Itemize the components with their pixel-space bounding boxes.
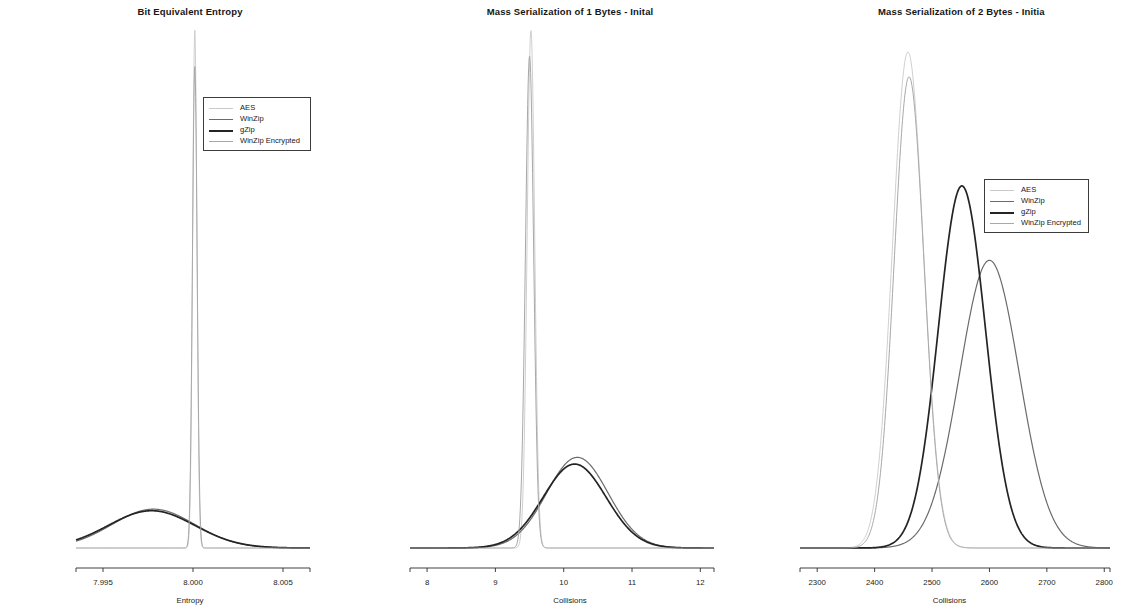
x-axis [800, 568, 1110, 572]
legend-line-swatch-aes [209, 103, 233, 112]
chart-panel-2-bytes: Mass Serialization of 2 Bytes - Initia A… [760, 0, 1139, 613]
x-axis-label: Collisions [760, 596, 1139, 605]
density-curve-gzip [76, 511, 310, 548]
x-axis-label: Collisions [380, 596, 760, 605]
legend-item-gzip: gZip [209, 124, 304, 135]
legend-item-winzip: WinZip [209, 113, 304, 124]
legend-line-swatch-gzip [209, 125, 233, 134]
x-tick-label: 2300 [795, 578, 839, 587]
legend-line-swatch-winzip-encrypted [209, 136, 233, 145]
x-tick-label: 2600 [967, 578, 1011, 587]
density-curve-winzip [76, 509, 310, 548]
figure-canvas: Bit Equivalent Entropy AES WinZip gZip W… [0, 0, 1139, 613]
chart-panel-entropy: Bit Equivalent Entropy AES WinZip gZip W… [0, 0, 380, 613]
density-curve-winzip-encrypted [800, 77, 1110, 548]
density-plot [380, 0, 760, 613]
density-curve-winzip-encrypted [410, 56, 714, 548]
legend: AES WinZip gZip WinZip Encrypted [203, 97, 311, 151]
legend-label: WinZip [240, 114, 264, 123]
density-curve-gzip [800, 186, 1110, 548]
x-tick-label: 11 [610, 578, 654, 587]
legend-item-winzip-encrypted: WinZip Encrypted [209, 135, 304, 146]
x-tick-label: 7.995 [81, 578, 125, 587]
chart-panel-1-byte: Mass Serialization of 1 Bytes - Inital A… [380, 0, 760, 613]
x-axis-label: Entropy [0, 596, 380, 605]
x-tick-label: 2800 [1082, 578, 1126, 587]
x-tick-label: 12 [678, 578, 722, 587]
legend-label: gZip [240, 125, 255, 134]
x-axis [410, 568, 714, 572]
legend-label: AES [240, 103, 255, 112]
density-curve-gzip [410, 464, 714, 548]
x-tick-label: 10 [542, 578, 586, 587]
x-tick-label: 8.000 [171, 578, 215, 587]
x-tick-label: 2700 [1025, 578, 1069, 587]
density-plot [760, 0, 1139, 613]
legend-line-swatch-winzip [209, 114, 233, 123]
x-tick-label: 2500 [910, 578, 954, 587]
x-tick-label: 8.005 [261, 578, 305, 587]
legend-label: WinZip Encrypted [240, 136, 300, 145]
density-curve-winzip [800, 260, 1110, 548]
density-curve-aes [800, 52, 1110, 548]
density-plot [0, 0, 380, 613]
x-tick-label: 2400 [853, 578, 897, 587]
x-axis [76, 568, 310, 572]
x-tick-label: 8 [405, 578, 449, 587]
x-tick-label: 9 [473, 578, 517, 587]
legend-item-aes: AES [209, 102, 304, 113]
